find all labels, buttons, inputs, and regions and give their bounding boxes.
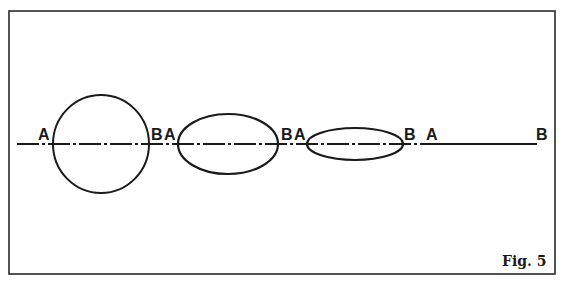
label-a-3: A (294, 126, 306, 143)
label-b-1: B (151, 126, 163, 143)
label-a-1: A (38, 126, 50, 143)
figure-caption: Fig. 5 (502, 253, 547, 269)
diagram-canvas: A B A B A B A B Fig. 5 (0, 0, 563, 288)
label-b-2: B (281, 126, 293, 143)
figure-5: A B A B A B A B Fig. 5 (0, 0, 563, 288)
label-b-3: B (404, 126, 416, 143)
label-b-4: B (536, 126, 548, 143)
label-a-2: A (164, 126, 176, 143)
label-a-4: A (426, 126, 438, 143)
